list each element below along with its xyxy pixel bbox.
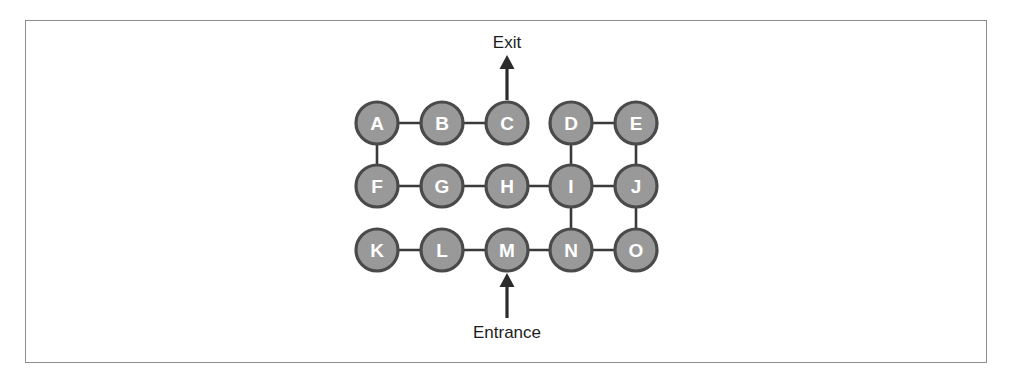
graph-node-o: O	[615, 229, 657, 271]
node-label-d: D	[564, 113, 578, 134]
graph-node-l: L	[421, 229, 463, 271]
node-label-i: I	[568, 176, 573, 197]
graph-node-g: G	[421, 165, 463, 207]
node-label-k: K	[370, 240, 384, 261]
node-label-l: L	[436, 240, 448, 261]
graph-node-m: M	[486, 229, 528, 271]
node-label-c: C	[500, 113, 514, 134]
graph-node-f: F	[356, 165, 398, 207]
annotation-label-exit: Exit	[493, 33, 522, 52]
graph-node-h: H	[486, 165, 528, 207]
graph-node-k: K	[356, 229, 398, 271]
node-label-j: J	[631, 176, 642, 197]
graph-node-i: I	[550, 165, 592, 207]
annotation-exit	[500, 55, 515, 100]
graph-node-b: B	[421, 102, 463, 144]
annotation-arrow-head-exit	[500, 55, 515, 69]
maze-graph-svg: ABCDEFGHIJKLMNO ExitEntrance	[0, 0, 1011, 380]
node-label-m: M	[499, 240, 515, 261]
node-label-h: H	[500, 176, 514, 197]
node-label-n: N	[564, 240, 578, 261]
node-label-g: G	[435, 176, 450, 197]
graph-node-n: N	[550, 229, 592, 271]
node-label-e: E	[630, 113, 643, 134]
graph-node-c: C	[486, 102, 528, 144]
graph-node-j: J	[615, 165, 657, 207]
graph-node-a: A	[356, 102, 398, 144]
node-label-a: A	[370, 113, 384, 134]
figure-root: ABCDEFGHIJKLMNO ExitEntrance	[0, 0, 1011, 380]
node-label-o: O	[629, 240, 644, 261]
annotation-arrow-head-entrance	[500, 273, 515, 287]
annotation-entrance	[500, 273, 515, 318]
graph-node-d: D	[550, 102, 592, 144]
node-label-f: F	[371, 176, 383, 197]
graph-node-e: E	[615, 102, 657, 144]
node-label-b: B	[435, 113, 449, 134]
annotation-label-entrance: Entrance	[473, 323, 541, 342]
